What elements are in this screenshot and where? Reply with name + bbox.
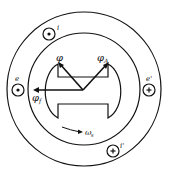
- conductor-e-prime: [143, 84, 155, 96]
- dot-icon: [47, 32, 50, 35]
- conductor-i: [43, 28, 55, 40]
- conductor-i-prime-label: i': [120, 142, 124, 150]
- phi-label: φ: [56, 52, 63, 63]
- conductor-e-label: e: [15, 75, 19, 83]
- conductor-e-prime-label: e': [146, 75, 152, 83]
- rotor-body: [45, 64, 121, 118]
- omega-subscript: s: [91, 132, 94, 138]
- conductor-e: [12, 84, 24, 96]
- phi-a-label: φ: [97, 52, 104, 63]
- phi-f-subscript: f: [38, 97, 43, 105]
- conductor-i-prime: [107, 145, 119, 157]
- phi-a-arrow: [83, 62, 109, 90]
- phi-arrow: [58, 62, 83, 90]
- rotation-arrow: [62, 127, 83, 134]
- phi-f-label: φ: [32, 92, 39, 103]
- machine-diagram: φ φ A φ f ω s i e e' i': [0, 0, 169, 177]
- dot-icon: [16, 88, 19, 91]
- phi-a-subscript: A: [103, 57, 109, 64]
- conductor-i-label: i: [57, 24, 59, 32]
- phi-f-arrow: [33, 87, 83, 93]
